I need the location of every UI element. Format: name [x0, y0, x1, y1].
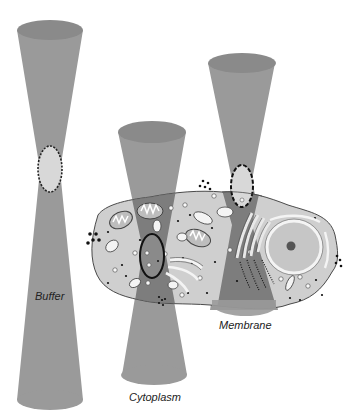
buffer-focal-cone: [17, 20, 83, 410]
label-buffer: Buffer: [35, 290, 64, 302]
label-membrane: Membrane: [219, 319, 272, 331]
label-cytoplasm: Cytoplasm: [129, 391, 181, 403]
buffer-focal-volume: [38, 146, 62, 192]
cell: [86, 165, 342, 320]
cell-notch-top: [199, 180, 212, 191]
nucleolus: [287, 242, 296, 251]
mitochondrion: [137, 203, 163, 219]
diagram-canvas: [0, 0, 356, 412]
cytoplasm-focal-volume: [140, 234, 164, 278]
membrane-cone-bottom: [212, 300, 276, 316]
